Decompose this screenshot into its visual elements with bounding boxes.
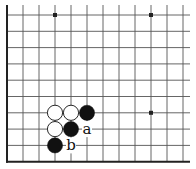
star-point: [53, 13, 57, 17]
star-point: [149, 13, 153, 17]
white-stone: [47, 105, 62, 120]
point-label-b: b: [66, 136, 76, 154]
black-stone: [63, 122, 78, 137]
star-point: [149, 111, 153, 115]
white-stone: [47, 122, 62, 137]
go-board: ab: [0, 0, 196, 169]
black-stone: [79, 105, 94, 120]
point-label-a: a: [83, 120, 92, 138]
black-stone: [47, 138, 62, 153]
white-stone: [63, 105, 78, 120]
